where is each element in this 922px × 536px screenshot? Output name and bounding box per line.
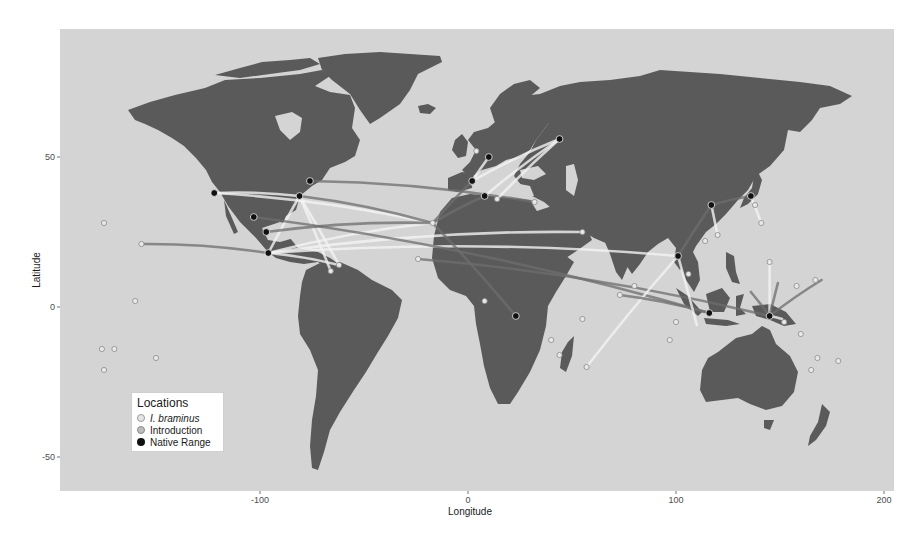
introduction-point (532, 199, 537, 204)
y-tick-label: -50 (42, 452, 55, 462)
y-tick-label: 0 (50, 302, 55, 312)
native-range-point (556, 136, 563, 143)
introduction-point (482, 298, 487, 303)
legend: Locations I. braminus Introduction Nativ… (131, 392, 224, 452)
introduction-point (767, 259, 772, 264)
introduction-point (112, 346, 117, 351)
black-circle-icon (137, 438, 145, 446)
introduction-point (415, 256, 420, 261)
legend-label: I. braminus (150, 413, 199, 424)
introduction-point (815, 355, 820, 360)
introduction-point (474, 148, 479, 153)
introduction-point (133, 298, 138, 303)
introduction-point (617, 292, 622, 297)
introduction-point (836, 358, 841, 363)
introduction-point (584, 364, 589, 369)
native-range-point (307, 178, 314, 185)
introduction-point (99, 346, 104, 351)
introduction-point (153, 355, 158, 360)
y-tick-label: 50 (45, 152, 55, 162)
introduction-point (794, 283, 799, 288)
x-tick-label: 0 (465, 495, 470, 505)
native-range-point (747, 193, 754, 200)
introduction-point (139, 241, 144, 246)
legend-entry-braminus: I. braminus (137, 412, 218, 424)
native-range-point (675, 253, 682, 260)
native-range-point (708, 202, 715, 209)
legend-entry-native: Native Range (137, 436, 218, 448)
introduction-point (336, 262, 341, 267)
introduction-point (549, 337, 554, 342)
introduction-point (703, 238, 708, 243)
native-range-point (481, 193, 488, 200)
grey-circle-icon (137, 426, 145, 434)
native-range-point (211, 190, 218, 197)
introduction-point (809, 367, 814, 372)
native-range-point (250, 214, 257, 221)
introduction-point (101, 367, 106, 372)
y-axis: 50 0 -50 Latitude (31, 152, 60, 462)
x-axis: -100 0 100 200 Longitude (251, 491, 892, 517)
native-range-point (766, 313, 773, 320)
y-axis-title: Latitude (31, 252, 42, 288)
introduction-point (813, 277, 818, 282)
introduction-point (715, 232, 720, 237)
introduction-point (752, 202, 757, 207)
native-range-point (469, 178, 476, 185)
native-range-point (512, 313, 519, 320)
world-map-chart: 50 0 -50 Latitude -100 0 100 200 Longitu… (0, 0, 922, 536)
x-tick-label: 100 (668, 495, 683, 505)
x-tick-label: -100 (251, 495, 269, 505)
x-tick-label: 200 (876, 495, 891, 505)
introduction-point (782, 319, 787, 324)
x-axis-title: Longitude (448, 506, 492, 517)
introduction-point (798, 331, 803, 336)
native-range-point (265, 250, 272, 257)
introduction-point (686, 271, 691, 276)
introduction-point (328, 268, 333, 273)
introduction-point (580, 229, 585, 234)
legend-title: Locations (137, 396, 218, 410)
native-range-point (485, 154, 492, 161)
introduction-point (759, 220, 764, 225)
legend-label: Native Range (150, 437, 211, 448)
introduction-point (673, 319, 678, 324)
introduction-point (430, 220, 435, 225)
legend-entry-introduction: Introduction (137, 424, 218, 436)
introduction-point (667, 337, 672, 342)
native-range-point (296, 193, 303, 200)
introduction-point (557, 352, 562, 357)
introduction-point (495, 196, 500, 201)
introduction-point (101, 220, 106, 225)
native-range-point (706, 310, 713, 317)
native-range-point (263, 229, 270, 236)
legend-label: Introduction (150, 425, 202, 436)
introduction-point (632, 283, 637, 288)
open-circle-icon (137, 414, 145, 422)
introduction-point (580, 316, 585, 321)
